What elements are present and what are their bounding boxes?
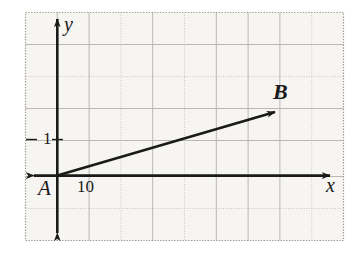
x-tick-value-label: 10 — [77, 178, 94, 195]
point-b-label: B — [273, 81, 288, 103]
y-tick-value-label: 1 — [43, 130, 52, 147]
coordinate-grid-figure — [0, 0, 355, 257]
y-axis-label: y — [64, 14, 73, 34]
x-axis-label: x — [326, 175, 335, 195]
point-a-label: A — [38, 178, 51, 199]
figure-container: y x A B 1 10 — [0, 0, 355, 257]
